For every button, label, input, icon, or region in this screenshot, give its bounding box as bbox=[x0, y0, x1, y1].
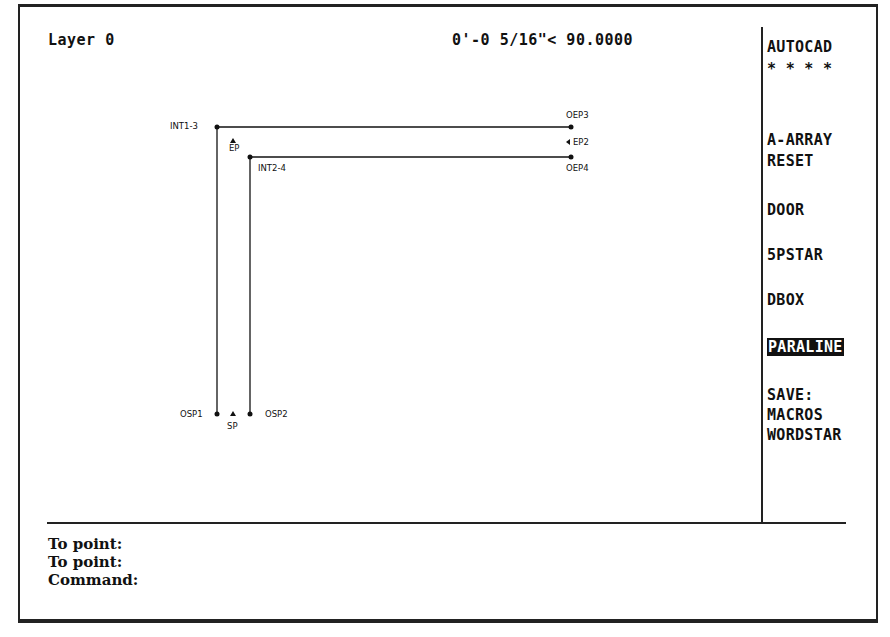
menu-item-dbox[interactable]: DBOX bbox=[767, 291, 804, 309]
label-ep: EP bbox=[229, 143, 240, 153]
command-history-line: To point: bbox=[48, 553, 138, 571]
ep2-marker bbox=[566, 139, 570, 145]
menu-item-macros[interactable]: MACROS bbox=[767, 406, 823, 424]
menu-item-wordstar[interactable]: WORDSTAR bbox=[767, 426, 842, 444]
osp1-point bbox=[215, 412, 220, 417]
label-int1: INT1-3 bbox=[170, 121, 198, 131]
menu-item-5pstar[interactable]: 5PSTAR bbox=[767, 246, 823, 264]
command-prompt[interactable]: Command: bbox=[48, 571, 138, 589]
label-int2: INT2-4 bbox=[258, 163, 286, 173]
command-line-area[interactable]: To point: To point: Command: bbox=[48, 535, 138, 589]
int2-point bbox=[248, 155, 253, 160]
int1-point bbox=[215, 125, 220, 130]
label-ep2: EP2 bbox=[573, 137, 589, 147]
menu-item-door[interactable]: DOOR bbox=[767, 201, 804, 219]
menu-item-save[interactable]: SAVE: bbox=[767, 386, 814, 404]
label-sp: SP bbox=[227, 421, 238, 431]
oep3-point bbox=[569, 125, 574, 130]
menu-item-separator[interactable]: * * * * bbox=[767, 60, 832, 78]
label-osp2: OSP2 bbox=[265, 409, 288, 419]
oep4-point bbox=[569, 155, 574, 160]
command-history-line: To point: bbox=[48, 535, 138, 553]
label-oep4: OEP4 bbox=[566, 163, 589, 173]
osp2-point bbox=[248, 412, 253, 417]
sp-marker bbox=[230, 411, 236, 416]
menu-item-autocad[interactable]: AUTOCAD bbox=[767, 38, 832, 56]
label-osp1: OSP1 bbox=[180, 409, 203, 419]
menu-item-paraline[interactable]: PARALINE bbox=[767, 338, 844, 356]
label-oep3: OEP3 bbox=[566, 110, 589, 120]
menu-item-a-array[interactable]: A-ARRAY bbox=[767, 131, 832, 149]
menu-item-reset[interactable]: RESET bbox=[767, 152, 814, 170]
